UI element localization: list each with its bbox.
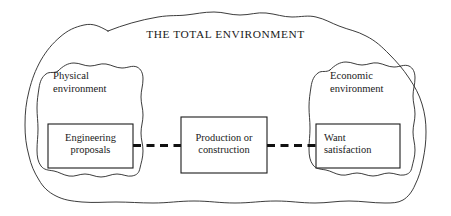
production-or-construction-label: Production or construction xyxy=(181,132,267,157)
diagram-title: THE TOTAL ENVIRONMENT xyxy=(0,28,451,41)
economic-environment-label: Economic environment xyxy=(330,70,384,95)
total-environment-diagram: THE TOTAL ENVIRONMENT Physical environme… xyxy=(0,0,451,216)
engineering-proposals-label: Engineering proposals xyxy=(48,132,133,157)
want-satisfaction-label: Want satisfaction xyxy=(324,132,402,157)
physical-environment-label: Physical environment xyxy=(53,70,107,95)
